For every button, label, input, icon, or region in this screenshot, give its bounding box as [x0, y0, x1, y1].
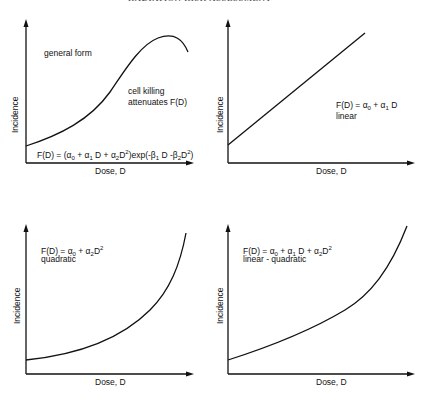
running-header: RADIATION RISK ASSESSMENT: [128, 0, 272, 3]
x-axis-arrow-icon: [407, 161, 415, 166]
x-axis-label: Dose, D: [316, 377, 347, 387]
annotation-general-form: general form: [44, 48, 92, 58]
formula-general: F(D) = (α0 + α1 D + α2D2)exp(-β1 D -β2D2…: [37, 147, 193, 163]
annotation-quadratic: quadratic: [41, 254, 76, 264]
annotation-attenuates: attenuates F(D): [128, 97, 187, 107]
y-axis-arrow-icon: [226, 224, 231, 232]
chart-linear: F(D) = α0 + α1 D linear Dose, D Incidenc…: [215, 20, 430, 217]
y-axis-arrow-icon: [24, 224, 29, 232]
chart-quadratic: F(D) = α0 + α2D2 quadratic Dose, D Incid…: [0, 210, 215, 404]
x-axis-label: Dose, D: [95, 166, 126, 176]
plot-linear: [215, 20, 430, 217]
annotation-cell-killing: cell killing: [128, 86, 164, 96]
y-axis-label: Incidence: [215, 288, 225, 324]
plot-general-form: [0, 20, 215, 217]
x-axis-arrow-icon: [407, 372, 415, 377]
y-axis-label: Incidence: [10, 97, 20, 133]
y-axis-arrow-icon: [24, 19, 29, 27]
y-axis-arrow-icon: [226, 19, 231, 27]
y-axis-label: Incidence: [215, 97, 225, 133]
y-axis-label: Incidence: [12, 288, 22, 324]
chart-general-form: general form cell killing attenuates F(D…: [0, 20, 215, 217]
annotation-linear: linear: [336, 111, 357, 121]
x-axis-label: Dose, D: [316, 166, 347, 176]
chart-linear-quadratic: F(D) = α0 + α1 D + α2D2 linear - quadrat…: [215, 210, 430, 404]
annotation-linear-quadratic: linear - quadratic: [243, 254, 306, 264]
x-axis-label: Dose, D: [95, 377, 126, 387]
plot-linear-quadratic: [215, 210, 430, 404]
x-axis-arrow-icon: [186, 372, 194, 377]
plot-quadratic: [0, 210, 215, 404]
